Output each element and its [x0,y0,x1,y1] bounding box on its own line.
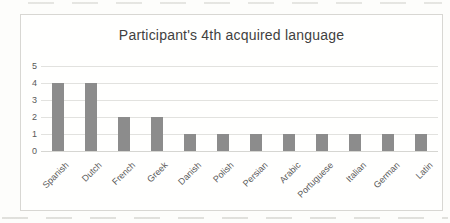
x-tick-label-german: German [371,160,401,190]
x-axis-line [41,151,438,152]
x-tick-label-spanish: Spanish [41,160,71,190]
scan-artifact-top [28,2,442,4]
bar-greek [151,117,163,151]
x-tick-label-danish: Danish [176,160,203,187]
bar-italian [349,134,361,151]
x-axis-labels: SpanishDutchFrenchGreekDanishPolishPersi… [41,156,438,208]
x-tick-label-dutch: Dutch [80,160,104,184]
x-tick-label-italian: Italian [344,160,368,184]
bar-persian [250,134,262,151]
y-tick-label: 0 [21,145,37,157]
bar-slot [74,66,107,151]
bar-slot [107,66,140,151]
y-tick-label: 4 [21,77,37,89]
x-tick-label-polish: Polish [212,160,236,184]
bar-portuguese [316,134,328,151]
bar-spanish [52,83,64,151]
bar-french [118,117,130,151]
bar-slot [273,66,306,151]
y-tick-label: 2 [21,111,37,123]
x-tick-label-latin: Latin [414,160,435,181]
x-tick-label-french: French [110,160,137,187]
bar-slot [405,66,438,151]
bar-dutch [85,83,97,151]
x-tick-label-arabic: Arabic [277,160,302,185]
x-tick-label-greek: Greek [145,160,169,184]
scan-artifact-bottom [2,217,448,219]
bar-danish [184,134,196,151]
bar-slot [41,66,74,151]
bar-slot [173,66,206,151]
bar-german [382,134,394,151]
y-tick-label: 3 [21,94,37,106]
bar-slot [140,66,173,151]
y-tick-label: 5 [21,60,37,72]
bar-polish [217,134,229,151]
bar-slot [306,66,339,151]
scanned-chart-page: Participant's 4th acquired language 5432… [0,0,450,223]
bar-chart-frame: Participant's 4th acquired language 5432… [20,14,443,211]
bar-slot [239,66,272,151]
bar-latin [415,134,427,151]
plot-area [41,66,438,151]
x-tick-label-persian: Persian [240,160,269,189]
bar-arabic [283,134,295,151]
bar-slot [206,66,239,151]
bars [41,66,438,151]
bar-slot [372,66,405,151]
bar-slot [339,66,372,151]
y-tick-label: 1 [21,128,37,140]
